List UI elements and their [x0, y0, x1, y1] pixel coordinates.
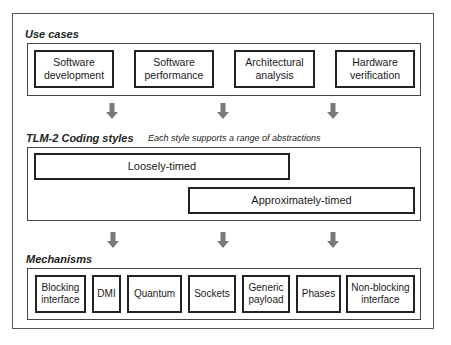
- use-case-label: Architectural analysis: [239, 56, 311, 82]
- mechanism-blocking-interface: Blocking interface: [35, 275, 86, 313]
- use-case-label: Software performance: [138, 56, 210, 82]
- mechanism-label: Generic payload: [244, 282, 288, 306]
- mechanism-phases: Phases: [296, 275, 341, 313]
- use-case-label: Hardware verification: [340, 56, 410, 82]
- use-case-software-performance: Software performance: [134, 50, 214, 88]
- mechanism-generic-payload: Generic payload: [242, 275, 290, 313]
- style-loosely-timed: Loosely-timed: [34, 153, 290, 180]
- down-arrow-icon: [327, 232, 339, 248]
- style-label: Loosely-timed: [128, 160, 196, 173]
- mechanisms-title: Mechanisms: [26, 253, 92, 265]
- mechanism-label: Blocking interface: [38, 282, 84, 306]
- coding-styles-subtitle: Each style supports a range of abstracti…: [148, 133, 321, 143]
- mechanism-label: Sockets: [194, 288, 230, 300]
- down-arrow-icon: [217, 103, 229, 119]
- mechanism-quantum: Quantum: [127, 275, 182, 313]
- down-arrow-icon: [327, 103, 339, 119]
- style-label: Approximately-timed: [251, 194, 351, 207]
- mechanism-label: Non-blocking interface: [348, 282, 413, 306]
- mechanism-dmi: DMI: [92, 275, 121, 313]
- use-case-label: Software development: [39, 56, 109, 82]
- use-cases-title: Use cases: [25, 28, 79, 40]
- mechanism-non-blocking-interface: Non-blocking interface: [346, 275, 415, 313]
- mechanism-label: Phases: [302, 288, 335, 300]
- down-arrow-icon: [217, 232, 229, 248]
- mechanism-label: Quantum: [134, 288, 175, 300]
- down-arrow-icon: [107, 232, 119, 248]
- down-arrow-icon: [106, 103, 118, 119]
- use-case-hardware-verification: Hardware verification: [335, 50, 415, 88]
- style-approximately-timed: Approximately-timed: [188, 187, 415, 214]
- use-case-software-development: Software development: [34, 50, 114, 88]
- mechanism-label: DMI: [97, 288, 115, 300]
- mechanism-sockets: Sockets: [188, 275, 236, 313]
- use-case-architectural-analysis: Architectural analysis: [234, 50, 315, 88]
- coding-styles-title: TLM-2 Coding styles: [26, 132, 134, 144]
